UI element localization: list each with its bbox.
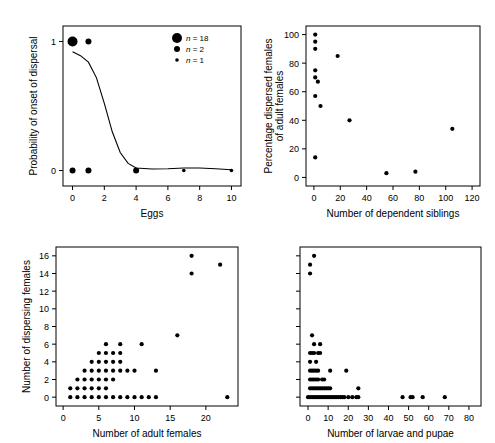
plot-panel-c: 051015200246810121416Number of adult fem… [21, 247, 238, 439]
data-point [97, 386, 101, 390]
data-point [111, 377, 115, 381]
fit-curve [73, 52, 232, 170]
data-point [225, 395, 229, 399]
data-point [347, 118, 351, 122]
y-tick-label: 16 [39, 251, 49, 261]
legend-marker [172, 33, 182, 43]
data-point [85, 168, 91, 174]
data-point [318, 104, 322, 108]
data-point [313, 68, 317, 72]
x-tick-label: 30 [363, 413, 373, 423]
y-tick-label: 80 [289, 59, 299, 69]
data-point [443, 395, 447, 399]
data-point [356, 386, 360, 390]
data-point [75, 395, 79, 399]
x-tick-label: 0 [306, 413, 311, 423]
plot-frame [56, 247, 238, 406]
data-point [97, 369, 101, 373]
x-tick-label: 20 [343, 413, 353, 423]
y-axis-title-line2: of adult females [274, 71, 285, 142]
x-tick-label: 15 [165, 413, 175, 423]
data-point [190, 254, 194, 258]
legend-marker [175, 58, 179, 62]
plot-frame [63, 26, 241, 186]
data-point [140, 395, 144, 399]
x-tick-label: 20 [335, 193, 345, 203]
y-tick-label: 0 [44, 393, 49, 403]
x-tick-label: 10 [130, 413, 140, 423]
plot-frame [300, 247, 481, 406]
figure-panel-grid: 024681001EggsProbability of onset of dis… [0, 0, 495, 443]
data-point [75, 386, 79, 390]
data-point [218, 263, 222, 267]
data-point [312, 342, 316, 346]
y-tick-label: 14 [39, 269, 49, 279]
x-tick-label: 6 [165, 193, 170, 203]
y-tick-label: 10 [39, 304, 49, 314]
data-point [230, 169, 234, 173]
x-tick-label: 5 [96, 413, 101, 423]
x-tick-label: 70 [444, 413, 454, 423]
data-point [384, 171, 388, 175]
data-point [154, 395, 158, 399]
data-point [312, 254, 316, 258]
y-tick-label: 40 [289, 116, 299, 126]
plot-frame [306, 26, 480, 186]
data-point [318, 351, 322, 355]
data-point [182, 169, 186, 173]
data-point [318, 342, 322, 346]
plot-panel-d: 01020304050607080Number of larvae and pu… [296, 247, 481, 439]
data-point [90, 395, 94, 399]
x-tick-label: 60 [388, 193, 398, 203]
x-tick-label: 60 [424, 413, 434, 423]
multi-panel-scatter-figure: 024681001EggsProbability of onset of dis… [0, 0, 495, 443]
legend-marker [174, 46, 180, 52]
data-point [346, 395, 350, 399]
data-point [70, 168, 76, 174]
x-tick-label: 8 [197, 193, 202, 203]
data-point [313, 155, 317, 159]
y-tick-label: 1 [51, 37, 56, 47]
legend-label: n = 2 [186, 45, 205, 54]
data-point [111, 360, 115, 364]
x-axis-title: Number of larvae and pupae [327, 428, 454, 439]
y-tick-label: 2 [44, 375, 49, 385]
data-point [90, 377, 94, 381]
x-tick-label: 0 [311, 193, 316, 203]
data-point [68, 36, 78, 46]
y-axis-title: Percentage dispersed females [263, 38, 274, 173]
x-axis-title: Number of dependent siblings [327, 208, 460, 219]
data-point [132, 395, 136, 399]
x-tick-label: 10 [226, 193, 236, 203]
data-point [316, 377, 320, 381]
x-tick-label: 4 [134, 193, 139, 203]
data-point [313, 47, 317, 51]
data-point [82, 369, 86, 373]
data-point [97, 360, 101, 364]
x-tick-label: 40 [362, 193, 372, 203]
y-tick-label: 4 [44, 357, 49, 367]
y-tick-label: 8 [44, 322, 49, 332]
data-point [104, 386, 108, 390]
data-point [82, 377, 86, 381]
x-tick-label: 0 [61, 413, 66, 423]
data-point [90, 360, 94, 364]
data-point [313, 94, 317, 98]
data-point [400, 395, 404, 399]
data-point [421, 395, 425, 399]
data-point [328, 369, 332, 373]
data-point [104, 342, 108, 346]
data-point [308, 263, 312, 267]
data-point [313, 32, 317, 36]
data-point [125, 395, 129, 399]
data-point [104, 395, 108, 399]
y-tick-label: 0 [294, 173, 299, 183]
plot-panel-a: 024681001EggsProbability of onset of dis… [28, 26, 241, 219]
y-tick-label: 12 [39, 287, 49, 297]
data-point [104, 360, 108, 364]
data-point [316, 369, 320, 373]
data-point [97, 377, 101, 381]
data-point [413, 170, 417, 174]
legend-label: n = 1 [186, 56, 205, 65]
y-tick-label: 20 [289, 144, 299, 154]
